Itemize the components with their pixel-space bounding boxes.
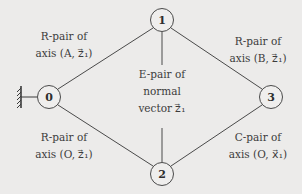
label-line: R-pair of xyxy=(28,129,100,146)
label-line: axis (A, z⃗₁) xyxy=(28,45,100,62)
edge-0-1-label: R-pair of axis (A, z⃗₁) xyxy=(28,28,100,62)
label-line: normal xyxy=(127,83,197,100)
node-1-label: 1 xyxy=(158,14,166,27)
label-line: R-pair of xyxy=(222,33,294,50)
label-line: R-pair of xyxy=(28,28,100,45)
edge-2-3-label: C-pair of axis (O, x⃗₁) xyxy=(222,129,294,163)
node-2: 2 xyxy=(150,162,174,186)
kinematic-graph: 0 1 2 3 R-pair of axis (A, z⃗₁) R-pair o… xyxy=(0,0,302,194)
label-line: E-pair of xyxy=(127,66,197,83)
node-2-label: 2 xyxy=(158,168,166,181)
node-0: 0 xyxy=(37,85,61,109)
edge-0-2-label: R-pair of axis (O, z⃗₁) xyxy=(28,129,100,163)
label-line: vector z⃗₁ xyxy=(127,100,197,117)
label-line: axis (O, z⃗₁) xyxy=(28,146,100,163)
node-3: 3 xyxy=(259,85,283,109)
node-0-label: 0 xyxy=(45,91,53,104)
node-3-label: 3 xyxy=(267,91,275,104)
label-line: C-pair of xyxy=(222,129,294,146)
edge-1-2-label: E-pair of normal vector z⃗₁ xyxy=(127,66,197,117)
node-1: 1 xyxy=(150,8,174,32)
ground-hatch-icon xyxy=(17,86,37,108)
label-line: axis (B, z⃗₁) xyxy=(222,50,294,67)
label-line: axis (O, x⃗₁) xyxy=(222,146,294,163)
edge-1-3-label: R-pair of axis (B, z⃗₁) xyxy=(222,33,294,67)
